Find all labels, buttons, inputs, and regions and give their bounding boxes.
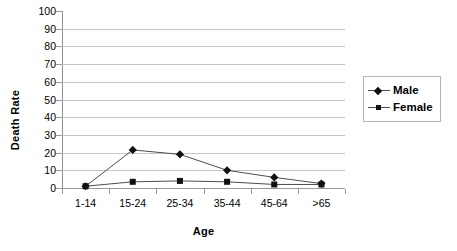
y-tick-label-0: 0: [30, 183, 56, 193]
legend-square-icon: [376, 105, 381, 110]
y-tick-label-70: 70: [30, 59, 56, 69]
y-tick-mark-90: [56, 29, 62, 30]
x-axis-title: Age: [62, 225, 345, 237]
data-point-male-25-34: [176, 150, 184, 158]
y-axis-title-label: Death Rate: [9, 90, 21, 150]
y-tick-label-40: 40: [30, 112, 56, 122]
x-tick-mark-3: [204, 189, 205, 194]
x-tick-label-15-24: 15-24: [119, 197, 146, 209]
y-axis-title: Death Rate: [6, 60, 24, 180]
data-point-male-45-64: [270, 173, 278, 181]
legend-label-male: Male: [390, 84, 419, 97]
data-point-female->65: [318, 181, 324, 187]
series-line-female: [86, 181, 322, 186]
legend-item-male[interactable]: Male: [368, 82, 433, 99]
x-axis-tick-labels: 1-1415-2425-3435-4445-64>65: [62, 197, 345, 213]
data-point-female-45-64: [271, 181, 277, 187]
y-tick-mark-80: [56, 46, 62, 47]
plot-area: [62, 11, 345, 188]
x-tick-mark-2: [156, 189, 157, 194]
x-tick-label-35-44: 35-44: [214, 197, 241, 209]
data-point-female-35-44: [224, 179, 230, 185]
y-tick-mark-50: [56, 100, 62, 101]
y-tick-label-90: 90: [30, 24, 56, 34]
legend-item-female[interactable]: Female: [368, 99, 433, 116]
legend-diamond-icon: [374, 86, 382, 94]
data-point-female-15-24: [130, 179, 136, 185]
y-tick-mark-20: [56, 153, 62, 154]
y-tick-label-20: 20: [30, 148, 56, 158]
x-tick-mark-0: [62, 189, 63, 194]
data-point-male-35-44: [223, 166, 231, 174]
legend-label-female: Female: [390, 101, 433, 114]
chart-legend: MaleFemale: [363, 76, 441, 122]
y-tick-mark-10: [56, 170, 62, 171]
data-point-female-25-34: [177, 178, 183, 184]
y-tick-label-10: 10: [30, 165, 56, 175]
y-tick-mark-60: [56, 82, 62, 83]
x-tick-label-25-34: 25-34: [166, 197, 193, 209]
y-tick-mark-100: [56, 11, 62, 12]
y-tick-label-80: 80: [30, 41, 56, 51]
x-tick-label-45-64: 45-64: [261, 197, 288, 209]
series-layer: [62, 11, 345, 188]
x-tick-mark-4: [251, 189, 252, 194]
x-tick-label->65: >65: [313, 197, 331, 209]
x-axis-title-label: Age: [193, 225, 215, 237]
data-point-female-1-14: [83, 183, 89, 189]
x-tick-mark-5: [298, 189, 299, 194]
y-tick-mark-40: [56, 117, 62, 118]
y-tick-mark-30: [56, 135, 62, 136]
y-tick-label-50: 50: [30, 95, 56, 105]
data-point-male-15-24: [129, 146, 137, 154]
line-chart: Death Rate 0102030405060708090100 1-1415…: [0, 0, 457, 251]
y-tick-mark-70: [56, 64, 62, 65]
x-tick-mark-1: [109, 189, 110, 194]
y-tick-label-60: 60: [30, 77, 56, 87]
legend-marker-diamond-icon: [368, 85, 390, 96]
y-axis-tick-labels: 0102030405060708090100: [28, 0, 56, 251]
series-line-male: [86, 150, 322, 186]
y-tick-label-100: 100: [30, 6, 56, 16]
x-tick-label-1-14: 1-14: [75, 197, 96, 209]
x-tick-mark-6: [345, 189, 346, 194]
legend-marker-square-icon: [368, 102, 390, 113]
y-tick-label-30: 30: [30, 130, 56, 140]
